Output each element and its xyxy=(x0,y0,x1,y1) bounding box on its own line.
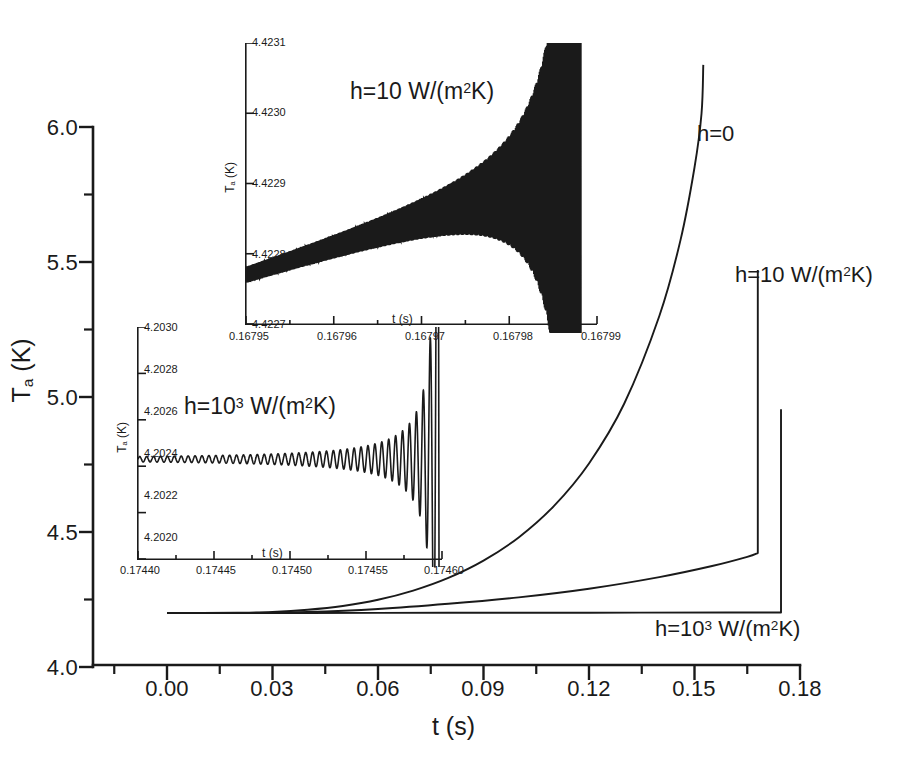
lower-inset-y-ticks xyxy=(138,327,146,559)
x-tick-label-0.00: 0.00 xyxy=(117,676,217,702)
y-axis-title: Ta (K) xyxy=(7,310,38,430)
lower-inset-y-title-subscript: a xyxy=(120,441,129,445)
y-axis-title-subscript: a xyxy=(19,379,36,388)
annotation-h1000-mid: W/(m xyxy=(712,616,771,641)
x-tick-label-0.15: 0.15 xyxy=(644,676,744,702)
lower-inset-y-tick-4.2026: 4.2026 xyxy=(144,405,178,417)
upper-inset-y-tick-4.4228: 4.4228 xyxy=(252,248,286,260)
upper-inset-title-post: K) xyxy=(471,78,494,104)
x-axis-title-text: t (s) xyxy=(432,712,475,740)
y-major-ticks xyxy=(79,127,93,667)
y-axis-title-unit: (K) xyxy=(7,338,35,378)
upper-inset-x-ticks xyxy=(246,316,597,324)
annotation-h10-pre: h=10 W/(m xyxy=(735,262,843,287)
lower-inset-y-title-unit: (K) xyxy=(115,422,129,441)
y-tick-label-4.5: 4.5 xyxy=(10,520,78,546)
annotation-h1000: h=103 W/(m2K) xyxy=(655,616,800,642)
lower-inset-y-tick-4.2028: 4.2028 xyxy=(144,363,178,375)
y-axis-title-symbol: T xyxy=(7,387,35,402)
upper-inset-y-title-subscript: a xyxy=(228,181,237,185)
annotation-h0: h=0 xyxy=(697,121,734,147)
lower-inset-title-exponent2: 2 xyxy=(305,395,313,411)
upper-inset-y-title-unit: (K) xyxy=(223,162,237,181)
upper-inset-x-tick-0.16798: 0.16798 xyxy=(473,330,553,342)
lower-inset-y-title: Ta (K) xyxy=(115,407,130,467)
x-tick-label-0.09: 0.09 xyxy=(433,676,533,702)
lower-inset-y-tick-4.2020: 4.2020 xyxy=(144,531,178,543)
lower-inset-y-tick-4.2030: 4.2030 xyxy=(144,321,178,333)
annotation-h1000-post: K) xyxy=(778,616,800,641)
x-minor-ticks xyxy=(114,665,747,674)
x-tick-label-0.03: 0.03 xyxy=(222,676,322,702)
lower-inset-x-tick-0.17445: 0.17445 xyxy=(178,564,254,576)
x-tick-label-0.06: 0.06 xyxy=(328,676,428,702)
annotation-h1000-pre: h=10 xyxy=(655,616,705,641)
upper-inset-x-tick-0.16799: 0.16799 xyxy=(561,330,641,342)
lower-inset-y-tick-4.2022: 4.2022 xyxy=(144,489,178,501)
lower-inset-y-title-symbol: T xyxy=(115,446,129,453)
lower-inset-title-post: K) xyxy=(313,393,336,419)
lower-inset-title: h=103 W/(m2K) xyxy=(184,393,336,420)
upper-inset-y-title-symbol: T xyxy=(223,186,237,193)
upper-inset-y-tick-4.4231: 4.4231 xyxy=(252,36,286,48)
lower-inset-curve xyxy=(138,327,441,567)
figure-canvas: 6.0 5.5 5.0 4.5 4.0 0.00 0.03 0.06 0.09 … xyxy=(0,0,907,759)
lower-inset-y-tick-4.2024: 4.2024 xyxy=(144,447,178,459)
annotation-h10: h=10 W/(m2K) xyxy=(735,262,873,288)
lower-inset-x-tick-0.17450: 0.17450 xyxy=(254,564,330,576)
lower-inset-x-tick-0.17440: 0.17440 xyxy=(102,564,178,576)
lower-inset-title-exponent: 3 xyxy=(236,395,244,411)
lower-inset xyxy=(137,327,447,562)
lower-inset-x-tick-0.17460: 0.17460 xyxy=(406,564,482,576)
upper-inset-x-title: t (s) xyxy=(392,312,413,326)
upper-inset-title: h=10 W/(m2K) xyxy=(350,78,494,105)
y-tick-label-4.0: 4.0 xyxy=(10,655,78,681)
upper-inset-title-exponent: 2 xyxy=(463,80,471,96)
upper-inset-y-tick-4.4229: 4.4229 xyxy=(252,177,286,189)
upper-inset-title-pre: h=10 W/(m xyxy=(350,78,463,104)
annotation-h10-exponent: 2 xyxy=(843,264,851,279)
lower-inset-x-title: t (s) xyxy=(262,546,283,560)
upper-inset-y-title: Ta (K) xyxy=(223,147,238,207)
annotation-h10-post: K) xyxy=(851,262,873,287)
y-tick-label-6.0: 6.0 xyxy=(10,115,78,141)
x-tick-label-0.12: 0.12 xyxy=(539,676,639,702)
x-tick-label-0.18: 0.18 xyxy=(750,676,850,702)
lower-inset-plot xyxy=(137,327,452,567)
lower-inset-title-pre: h=10 xyxy=(184,393,236,419)
lower-inset-x-tick-0.17455: 0.17455 xyxy=(330,564,406,576)
upper-inset-y-tick-4.4230: 4.4230 xyxy=(252,106,286,118)
y-tick-label-5.5: 5.5 xyxy=(10,250,78,276)
lower-inset-title-mid: W/(m xyxy=(244,393,305,419)
x-axis-title: t (s) xyxy=(0,712,907,741)
lower-inset-x-ticks xyxy=(138,551,442,559)
annotation-h1000-exponent: 3 xyxy=(705,618,713,633)
